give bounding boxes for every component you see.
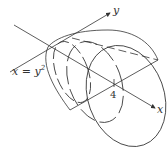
- x-axis-label: x: [157, 103, 164, 116]
- curve-label: x = y2: [12, 64, 46, 78]
- cross-section-1: [46, 36, 98, 107]
- cross-section-2: [56, 34, 134, 131]
- y-axis-label: y: [112, 4, 120, 17]
- bottom-radius-line: [70, 60, 158, 110]
- paraboloid-diagram: y x x = y2 4: [0, 0, 168, 149]
- tick-label-4: 4: [110, 89, 116, 100]
